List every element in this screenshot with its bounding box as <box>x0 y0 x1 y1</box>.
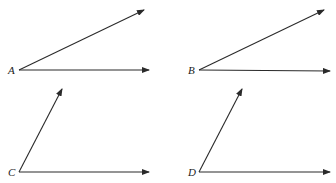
angle-b: B <box>188 10 330 76</box>
angle-a: A <box>7 10 149 76</box>
angle-b-upper-ray <box>199 10 324 70</box>
angle-a-upper-ray <box>19 10 144 70</box>
angle-b-lower-ray <box>199 70 330 71</box>
angle-c-upper-ray <box>19 89 62 172</box>
angle-d-label: D <box>187 166 196 178</box>
angle-c: C <box>8 89 149 178</box>
angle-d-upper-ray <box>199 89 242 172</box>
angle-d: D <box>187 89 330 178</box>
angle-b-label: B <box>188 64 195 76</box>
angle-c-label: C <box>8 166 16 178</box>
diagram-canvas: A B C D <box>0 0 336 183</box>
angle-a-label: A <box>7 64 15 76</box>
angle-diagram: A B C D <box>0 0 336 183</box>
